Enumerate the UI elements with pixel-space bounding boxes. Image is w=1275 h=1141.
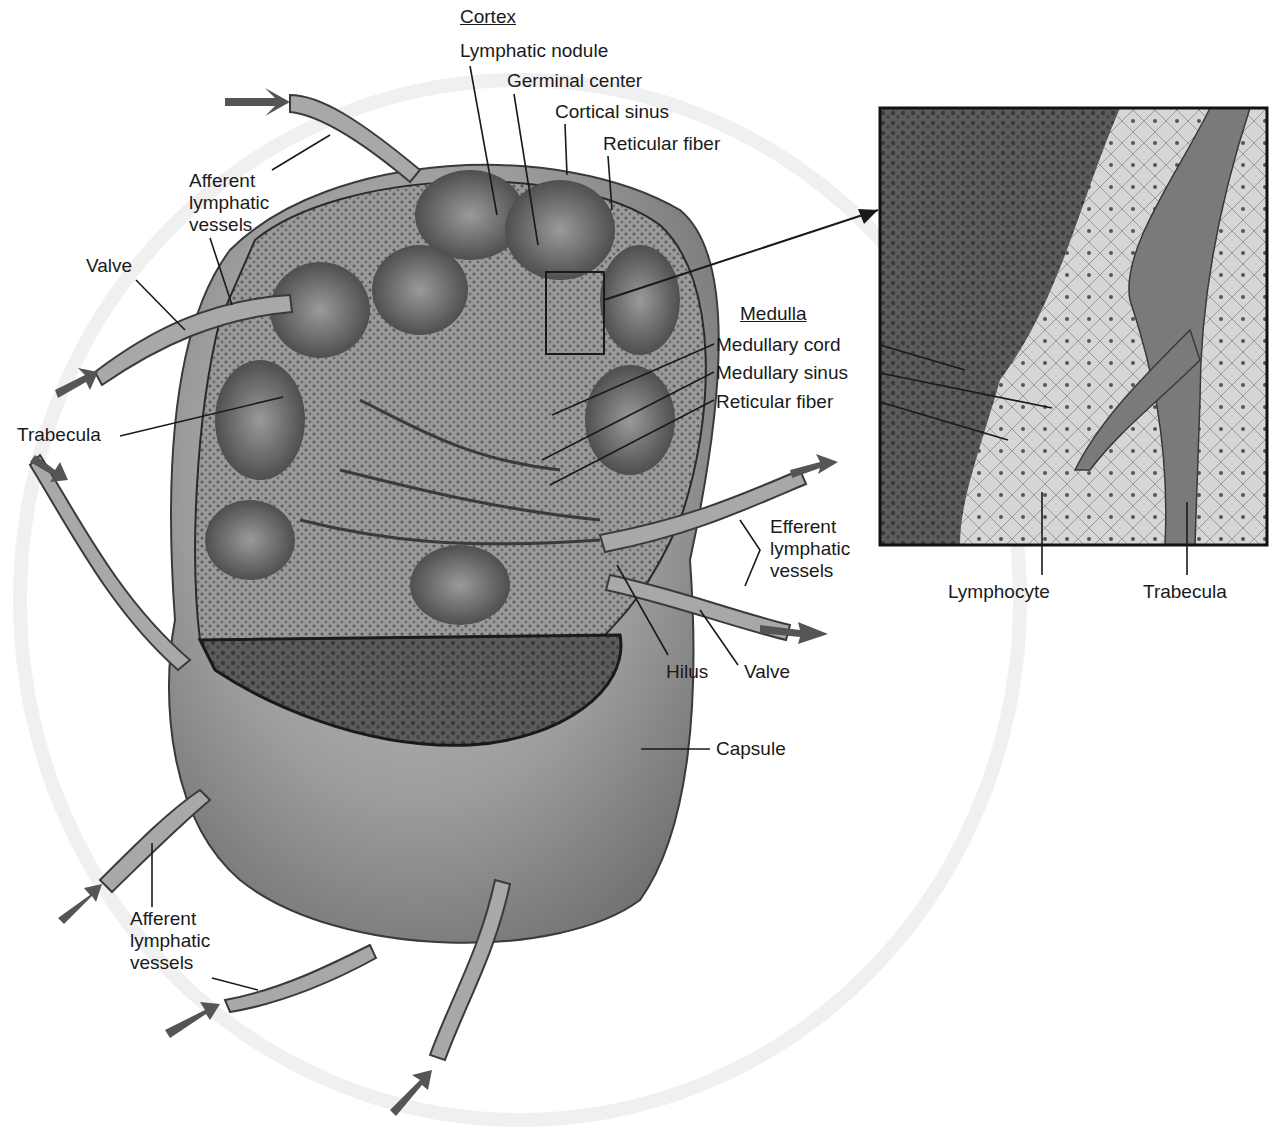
label-germinal-center: Germinal center: [507, 70, 642, 92]
label-capsule: Capsule: [716, 738, 786, 760]
label-efferent-vessels: Efferent lymphatic vessels: [770, 516, 850, 582]
label-medullary-cord: Medullary cord: [716, 334, 841, 356]
medulla-heading: Medulla: [740, 303, 807, 325]
label-medullary-sinus: Medullary sinus: [716, 362, 848, 384]
label-lymphatic-nodule: Lymphatic nodule: [460, 40, 608, 62]
label-cortical-sinus: Cortical sinus: [555, 101, 669, 123]
label-valve-left: Valve: [86, 255, 132, 277]
lymph-node-diagram: Cortex Lymphatic nodule Germinal center …: [0, 0, 1275, 1141]
label-reticular-fiber-medulla: Reticular fiber: [716, 391, 833, 413]
cortex-heading: Cortex: [460, 6, 516, 28]
label-trabecula-left: Trabecula: [17, 424, 101, 446]
label-hilus: Hilus: [666, 661, 708, 683]
label-afferent-vessels-top: Afferent lymphatic vessels: [189, 170, 269, 236]
histology-inset: [880, 108, 1267, 545]
label-lymphocyte: Lymphocyte: [948, 581, 1050, 603]
label-trabecula-inset: Trabecula: [1143, 581, 1227, 603]
label-valve-right: Valve: [744, 661, 790, 683]
label-afferent-vessels-bottom: Afferent lymphatic vessels: [130, 908, 210, 974]
label-reticular-fiber-cortex: Reticular fiber: [603, 133, 720, 155]
